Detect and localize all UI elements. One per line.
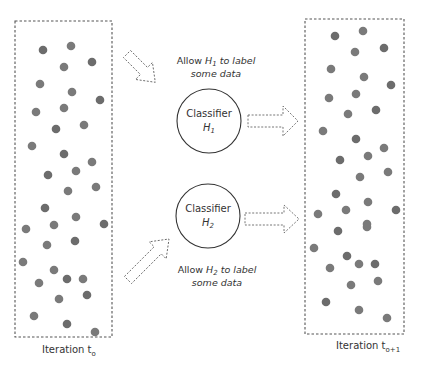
data-point: [83, 291, 92, 300]
allow-h1-line2: some data: [191, 68, 241, 79]
data-point: [92, 183, 101, 192]
data-point: [343, 252, 352, 261]
data-point: [334, 227, 343, 236]
data-point: [355, 260, 364, 269]
data-point: [360, 73, 369, 82]
data-point: [364, 198, 373, 207]
data-point: [63, 320, 72, 329]
data-point: [64, 187, 73, 196]
data-point: [352, 90, 361, 99]
data-point: [67, 42, 76, 51]
right-panel: Iteration to+1: [305, 19, 404, 354]
data-point: [30, 312, 39, 321]
data-point: [43, 241, 52, 250]
right-panel-dots: [310, 27, 401, 323]
iteration-t1-label: Iteration to+1: [336, 340, 400, 354]
data-point: [72, 167, 81, 176]
data-point: [374, 277, 383, 286]
data-point: [347, 281, 356, 290]
data-point: [372, 106, 381, 115]
data-point: [359, 27, 368, 36]
data-point: [60, 150, 69, 159]
classifier-h2-label: Classifier: [185, 203, 232, 214]
data-point: [91, 328, 100, 337]
data-point: [331, 32, 340, 41]
data-point: [332, 190, 341, 199]
data-point: [41, 204, 50, 213]
arrow-right-icon: [245, 205, 299, 233]
arrow-data-to-h1: [119, 46, 164, 91]
allow-h2-line2: some data: [192, 277, 242, 288]
left-panel-dots: [19, 42, 109, 337]
data-point: [72, 213, 81, 222]
annotation-allow-h1: Allow H1 to label some data: [177, 55, 256, 79]
classifier-h1-circle: [177, 89, 241, 153]
data-point: [96, 96, 105, 105]
data-point: [60, 104, 69, 113]
classifier-h2-circle: [176, 184, 240, 248]
allow-h2-line1: Allow H2 to label: [178, 264, 257, 277]
data-point: [342, 206, 351, 215]
data-point: [32, 108, 41, 117]
data-point: [35, 279, 44, 288]
classifier-h1-label: Classifier: [186, 108, 233, 119]
data-point: [351, 48, 360, 57]
arrow-h1-to-next: [248, 106, 298, 136]
arrow-down-right-icon: [119, 46, 164, 91]
allow-h1-line1: Allow H1 to label: [177, 55, 256, 68]
data-point: [319, 127, 328, 136]
data-point: [28, 142, 37, 151]
data-point: [19, 258, 28, 267]
data-point: [55, 295, 64, 304]
data-point: [88, 58, 97, 67]
data-point: [325, 94, 334, 103]
data-point: [344, 110, 353, 119]
data-point: [50, 266, 59, 275]
arrow-h2-to-next: [245, 205, 299, 233]
data-point: [352, 135, 361, 144]
data-point: [371, 260, 380, 269]
data-point: [314, 210, 323, 219]
classifier-h2: Classifier H2: [176, 184, 240, 248]
data-point: [88, 158, 97, 167]
data-point: [36, 80, 45, 89]
data-point: [387, 81, 396, 90]
data-point: [384, 168, 393, 177]
data-point: [380, 144, 389, 153]
data-point: [336, 156, 345, 165]
co-training-diagram: Iteration to Iteration to+1 Classifier H…: [0, 0, 423, 370]
data-point: [68, 88, 77, 97]
data-point: [60, 63, 69, 72]
left-panel: Iteration to: [15, 21, 112, 358]
arrow-right-icon: [248, 106, 298, 136]
data-point: [79, 275, 88, 284]
data-point: [363, 223, 372, 232]
data-point: [310, 244, 319, 253]
data-point: [100, 220, 109, 229]
data-point: [392, 206, 401, 215]
annotation-allow-h2: Allow H2 to label some data: [178, 264, 257, 288]
data-point: [327, 65, 336, 74]
data-point: [50, 221, 59, 230]
data-point: [380, 44, 389, 53]
iteration-t0-label: Iteration to: [42, 344, 96, 358]
data-point: [63, 275, 72, 284]
data-point: [44, 171, 53, 180]
data-point: [356, 173, 365, 182]
data-point: [355, 306, 364, 315]
data-point: [383, 314, 392, 323]
data-point: [39, 46, 48, 55]
classifier-h1: Classifier H1: [177, 89, 241, 153]
data-point: [364, 152, 373, 161]
data-point: [80, 121, 89, 130]
data-point: [22, 225, 31, 234]
arrow-data-to-h2: [120, 231, 178, 289]
data-point: [52, 125, 61, 134]
data-point: [71, 237, 80, 246]
data-point: [322, 298, 331, 307]
arrow-up-right-icon: [120, 231, 178, 289]
data-point: [326, 264, 335, 273]
